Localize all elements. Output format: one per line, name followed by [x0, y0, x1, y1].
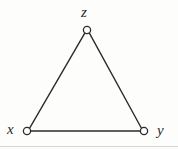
vertex-label-z: z	[81, 5, 87, 20]
scan-artifact-line	[0, 146, 178, 147]
graph-figure: z x y	[0, 0, 178, 149]
graph-vertices	[23, 26, 147, 134]
edge-z-y	[89, 33, 141, 128]
vertex-label-y: y	[157, 123, 164, 138]
vertex-y-node	[140, 127, 147, 134]
edge-x-z	[30, 33, 85, 128]
graph-canvas	[0, 0, 178, 149]
vertex-z-node	[83, 26, 90, 33]
vertex-label-x: x	[7, 122, 14, 137]
vertex-x-node	[23, 127, 30, 134]
graph-edges	[30, 33, 142, 131]
